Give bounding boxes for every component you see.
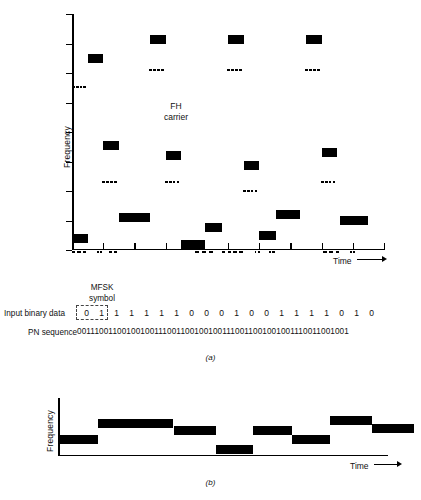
hop-bar bbox=[88, 54, 104, 63]
hop-bar bbox=[340, 216, 368, 225]
bit-sequence-rows: MFSK symbol Input binary data 0111111000… bbox=[0, 283, 421, 353]
binary-bit: 1 bbox=[349, 308, 364, 318]
mfsk-symbol-label: MFSK symbol bbox=[76, 283, 128, 304]
fh-carrier-dash-segment bbox=[165, 181, 168, 183]
x-axis-tick bbox=[166, 243, 167, 250]
hop-bar bbox=[276, 210, 299, 219]
baseline-dash-segment bbox=[255, 251, 257, 253]
fh-carrier-dash-segment bbox=[110, 181, 113, 183]
baseline-dash bbox=[350, 251, 356, 253]
baseline-dash-segment bbox=[323, 251, 327, 253]
y-axis-tick bbox=[66, 221, 72, 222]
baseline-dash-segment bbox=[272, 251, 274, 253]
binary-bit: 0 bbox=[184, 308, 199, 318]
y-axis-tick bbox=[66, 73, 72, 74]
y-axis-tick bbox=[66, 103, 72, 104]
fh-carrier-dash-segment bbox=[161, 69, 164, 71]
baseline-dash-segment bbox=[228, 251, 232, 253]
fh-carrier-dash-segment bbox=[177, 181, 180, 183]
baseline-dash bbox=[195, 251, 215, 253]
baseline-dash-segment bbox=[329, 251, 333, 253]
baseline-dash-segment bbox=[222, 251, 226, 253]
fh-carrier-dash bbox=[243, 190, 259, 192]
x-axis-tick bbox=[290, 243, 291, 250]
time-arrow-shaft-b bbox=[374, 464, 398, 465]
baseline-dash-segment bbox=[209, 251, 213, 253]
baseline-dash-segment bbox=[114, 251, 117, 253]
fh-carrier-dash-segment bbox=[243, 190, 246, 192]
binary-bit: 0 bbox=[364, 308, 379, 318]
fh-carrier-dash bbox=[227, 69, 243, 71]
pn-sequence-bits: 0011100110010010011100110010010011100110… bbox=[77, 327, 349, 336]
fh-carrier-annotation: FH carrier bbox=[152, 101, 200, 123]
binary-bit: 1 bbox=[274, 308, 289, 318]
fh-carrier-dash-segment bbox=[80, 86, 83, 88]
fh-carrier-dash-segment bbox=[231, 69, 234, 71]
baseline-dash-segment bbox=[353, 251, 355, 253]
fh-carrier-dash-segment bbox=[114, 181, 117, 183]
baseline-dash bbox=[323, 251, 342, 253]
fh-carrier-line-1: FH bbox=[152, 101, 200, 112]
time-arrow-shaft-a bbox=[357, 259, 383, 260]
figure-fh-mfsk: Frequency FH carrier Time MFSK symbol In… bbox=[0, 0, 421, 500]
x-axis-tick bbox=[134, 243, 135, 250]
x-axis-tick bbox=[384, 243, 385, 250]
hop-bar bbox=[330, 416, 371, 425]
hop-bar bbox=[306, 35, 322, 44]
baseline-dash-segment bbox=[258, 251, 260, 253]
binary-bit: 1 bbox=[154, 308, 169, 318]
baseline-dash bbox=[72, 251, 88, 253]
y-axis-line-b bbox=[58, 398, 60, 456]
hop-bar bbox=[292, 435, 330, 444]
hop-bar bbox=[150, 35, 166, 44]
fh-carrier-line-2: carrier bbox=[152, 112, 200, 123]
fh-carrier-dash-segment bbox=[251, 190, 254, 192]
binary-bit: 1 bbox=[289, 308, 304, 318]
baseline-dash-segment bbox=[77, 251, 80, 253]
binary-bit: 0 bbox=[244, 308, 259, 318]
hop-bar bbox=[244, 161, 260, 170]
mfsk-symbol-line-2: symbol bbox=[76, 294, 128, 305]
baseline-dash bbox=[269, 251, 277, 253]
binary-bit: 0 bbox=[214, 308, 229, 318]
x-axis-label-b: Time bbox=[350, 461, 369, 471]
hop-bar bbox=[58, 435, 98, 444]
fh-carrier-dash-segment bbox=[333, 181, 336, 183]
time-arrow-head-b bbox=[397, 461, 402, 467]
x-axis-tick bbox=[353, 243, 354, 250]
x-axis-line-b bbox=[58, 455, 388, 456]
baseline-dash bbox=[109, 251, 119, 253]
hop-bar bbox=[119, 213, 150, 222]
caption-b: (b) bbox=[0, 478, 421, 487]
binary-bit: 1 bbox=[124, 308, 139, 318]
binary-bit: 0 bbox=[334, 308, 349, 318]
fh-carrier-dash-segment bbox=[321, 181, 324, 183]
baseline-dash-segment bbox=[202, 251, 206, 253]
chart-a-fh-spread-spectrum: Frequency FH carrier Time bbox=[0, 0, 421, 275]
x-axis-tick bbox=[72, 243, 73, 250]
fh-carrier-dash-segment bbox=[317, 69, 320, 71]
fh-carrier-dash-segment bbox=[309, 69, 312, 71]
baseline-dash-segment bbox=[336, 251, 340, 253]
binary-bit: 1 bbox=[304, 308, 319, 318]
x-axis-tick bbox=[228, 243, 229, 250]
baseline-dash bbox=[97, 251, 103, 253]
x-axis-tick bbox=[259, 243, 260, 250]
plot-area-a bbox=[72, 14, 384, 250]
baseline-dash-segment bbox=[83, 251, 86, 253]
fh-carrier-dash bbox=[102, 181, 118, 183]
fh-carrier-dash bbox=[165, 181, 181, 183]
baseline-dash bbox=[255, 251, 261, 253]
caption-a: (a) bbox=[0, 353, 421, 362]
fh-carrier-dash-segment bbox=[157, 69, 160, 71]
hop-bar bbox=[166, 151, 182, 160]
time-arrow-head-a bbox=[382, 256, 387, 262]
y-axis-line-a bbox=[72, 14, 74, 250]
hop-bar bbox=[216, 445, 252, 454]
binary-bit: 0 bbox=[199, 308, 214, 318]
binary-bit: 1 bbox=[139, 308, 154, 318]
binary-bit: 1 bbox=[94, 308, 109, 318]
baseline-dash bbox=[222, 251, 245, 253]
binary-bit: 1 bbox=[109, 308, 124, 318]
binary-bit: 1 bbox=[319, 308, 334, 318]
